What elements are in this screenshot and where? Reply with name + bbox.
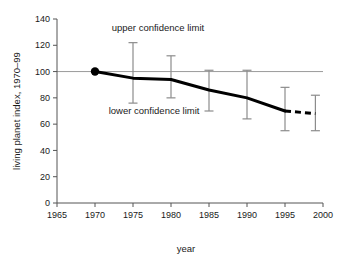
y-tick-label: 20 — [40, 172, 50, 182]
x-tick-label: 1985 — [199, 210, 219, 220]
annotation-label: lower confidence limit — [109, 105, 200, 116]
y-tick-label: 100 — [35, 67, 50, 77]
x-tick-label: 1970 — [85, 210, 105, 220]
x-tick-label: 1965 — [47, 210, 67, 220]
x-tick-label: 2000 — [313, 210, 333, 220]
x-tick-label: 1990 — [237, 210, 257, 220]
x-tick-label: 1995 — [275, 210, 295, 220]
y-tick-label: 140 — [35, 14, 50, 24]
x-tick-label: 1975 — [123, 210, 143, 220]
y-tick-label: 60 — [40, 119, 50, 129]
x-tick-label: 1980 — [161, 210, 181, 220]
y-tick-label: 80 — [40, 93, 50, 103]
y-tick-label: 40 — [40, 146, 50, 156]
living-planet-index-line-chart: 020406080100120140 196519701975198019851… — [0, 0, 344, 257]
data-point-marker — [91, 67, 99, 75]
y-tick-label: 120 — [35, 40, 50, 50]
y-axis-title: living planet index, 1970–99 — [11, 52, 22, 170]
annotation-label: upper confidence limit — [112, 22, 205, 33]
y-tick-label: 0 — [45, 198, 50, 208]
chart-container: 020406080100120140 196519701975198019851… — [0, 0, 344, 257]
x-axis-title: year — [177, 243, 195, 254]
